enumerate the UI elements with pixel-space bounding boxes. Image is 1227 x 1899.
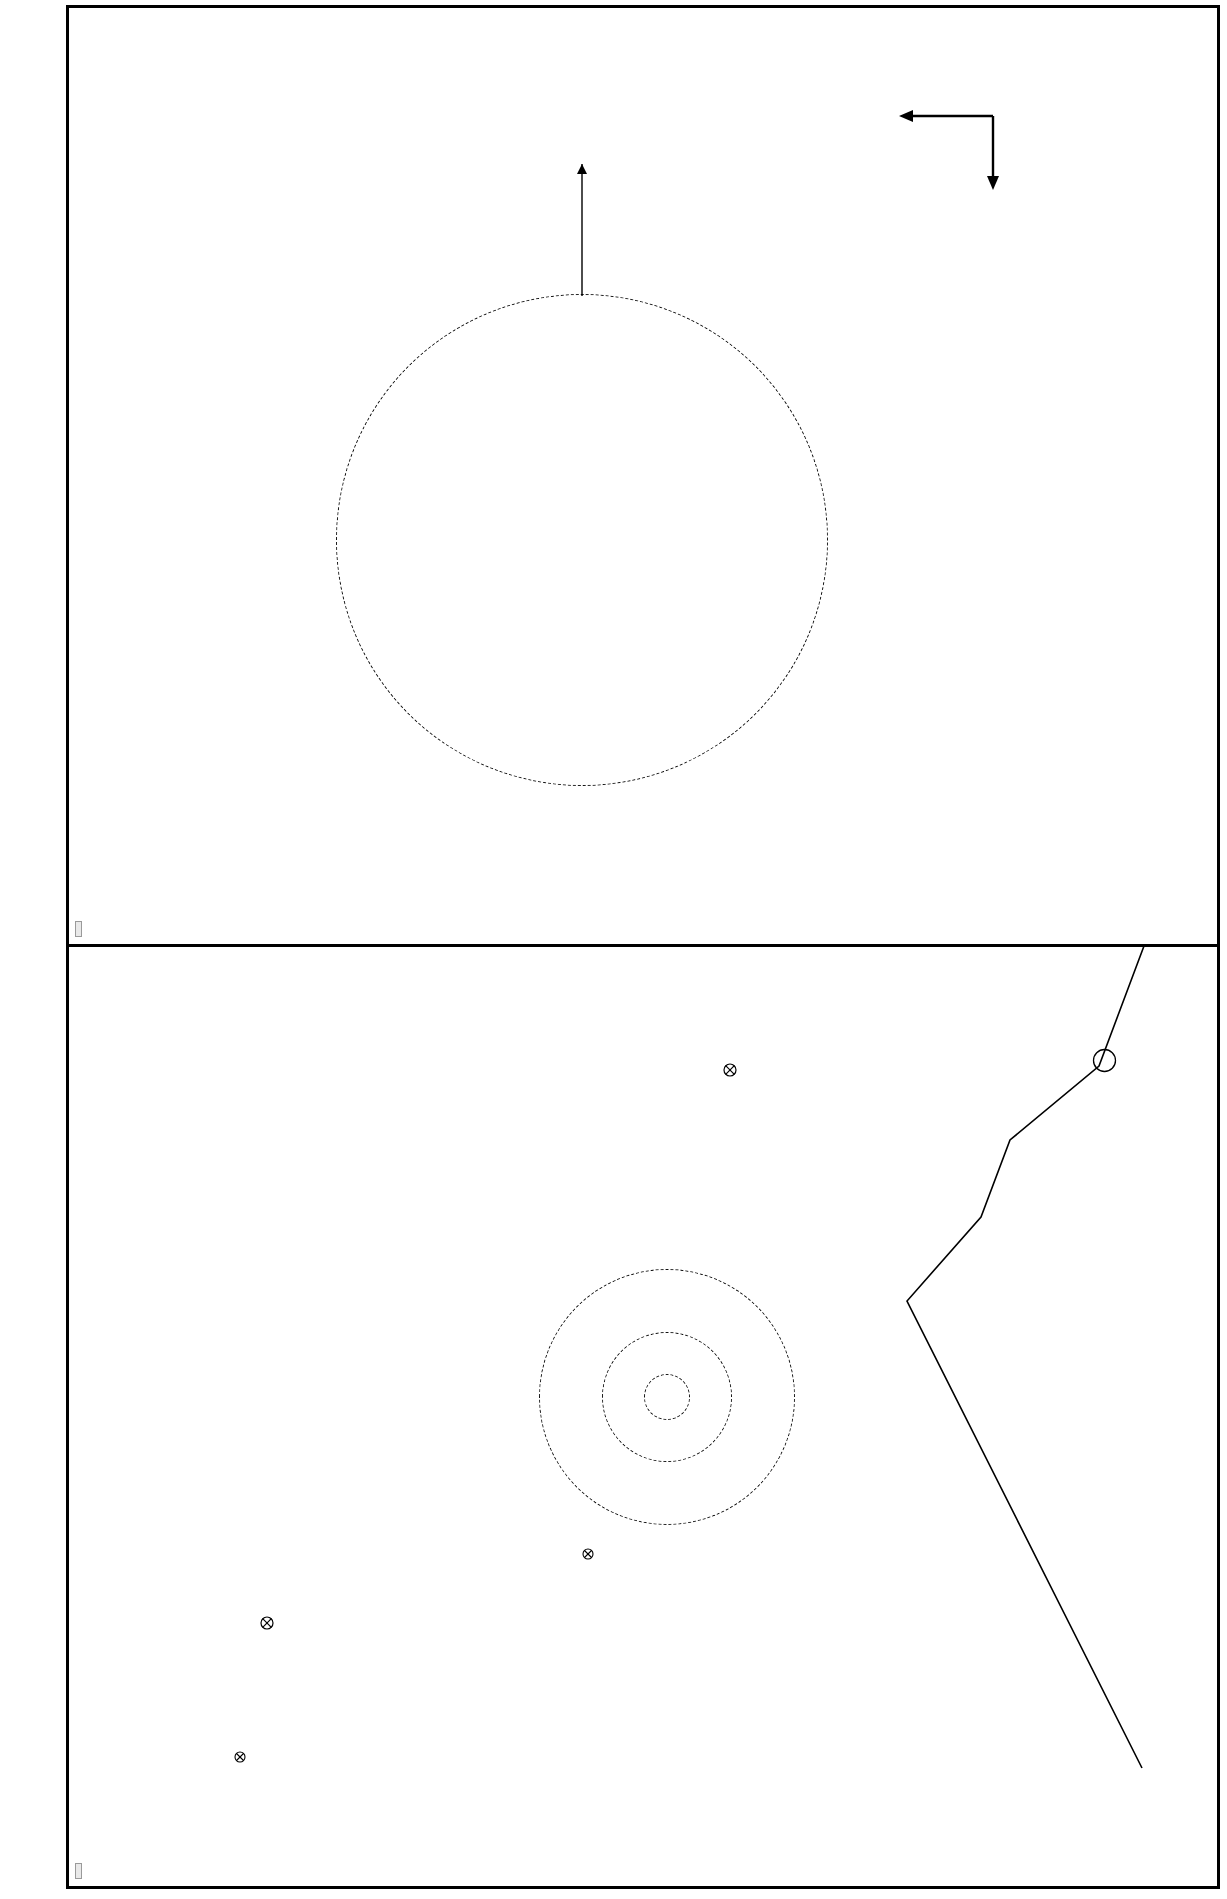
dso-marker-ngc7789[interactable] <box>260 1616 275 1631</box>
fov-edge-pointer <box>69 8 1217 944</box>
dso-marker-rho-region[interactable] <box>234 1749 249 1764</box>
dso-marker-unlabeled-1[interactable] <box>582 1546 597 1561</box>
compass-rose <box>875 52 1025 202</box>
star-chart-sheet <box>0 0 1227 1899</box>
dso-marker-ngc281[interactable] <box>723 1063 738 1078</box>
eyepiece-chip-label <box>75 921 82 937</box>
eyepiece-chart-panel[interactable] <box>66 5 1220 947</box>
fov-ring-outer <box>539 1269 795 1525</box>
page-title <box>6 11 60 1891</box>
finder-chip-label <box>75 1863 82 1879</box>
dso-marker-unlabeled-2[interactable] <box>1092 1059 1107 1074</box>
finder-chart-panel[interactable] <box>66 943 1220 1889</box>
